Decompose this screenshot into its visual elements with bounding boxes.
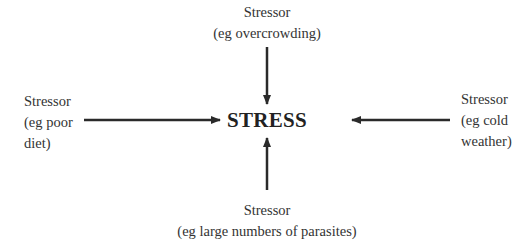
stressor-right-example-line1: (eg cold (461, 110, 512, 131)
stressor-left: Stressor (eg poor diet) (24, 91, 73, 154)
stressor-right-title: Stressor (461, 89, 512, 110)
stressor-right: Stressor (eg cold weather) (461, 89, 512, 152)
stressor-left-example-line2: diet) (24, 133, 73, 154)
stressor-bottom-example: (eg large numbers of parasites) (177, 221, 356, 242)
stressor-left-title: Stressor (24, 91, 73, 112)
stressor-top: Stressor (eg overcrowding) (213, 2, 321, 44)
stressor-top-title: Stressor (213, 2, 321, 23)
stressor-bottom: Stressor (eg large numbers of parasites) (177, 200, 356, 242)
stressor-right-example-line2: weather) (461, 131, 512, 152)
stressor-bottom-title: Stressor (177, 200, 356, 221)
stressor-left-example-line1: (eg poor (24, 112, 73, 133)
stress-node: STRESS (227, 108, 307, 133)
stressor-top-example: (eg overcrowding) (213, 23, 321, 44)
